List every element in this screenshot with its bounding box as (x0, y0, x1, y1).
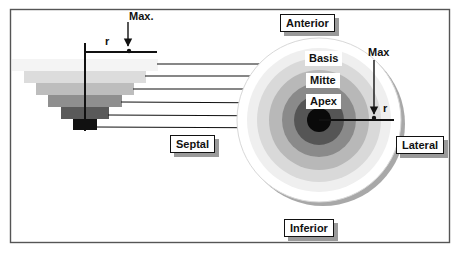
left-r-label: r (105, 35, 109, 47)
lateral-label: Lateral (396, 136, 444, 154)
polar-map-diagram: Max. r Max r Basis Mitte Apex Anterior S… (0, 0, 458, 255)
inferior-label: Inferior (284, 219, 334, 237)
zone-mitte-label: Mitte (306, 73, 340, 88)
diagram-canvas (0, 0, 458, 255)
zone-basis-label: Basis (305, 51, 342, 66)
anterior-label: Anterior (280, 14, 335, 32)
left-max-dot (127, 49, 131, 53)
right-max-dot (372, 116, 376, 120)
left-max-label: Max. (129, 10, 153, 22)
zone-apex-label: Apex (306, 94, 341, 109)
septal-label: Septal (170, 135, 215, 153)
right-max-label: Max (368, 46, 389, 58)
right-r-label: r (383, 102, 387, 114)
